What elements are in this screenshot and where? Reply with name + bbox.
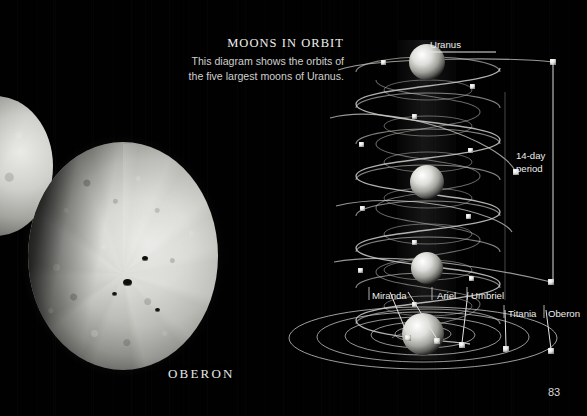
- uranus-sphere-plan: [402, 313, 444, 355]
- label-uranus: Uranus: [430, 39, 461, 50]
- page-number: 83: [548, 386, 560, 398]
- label-moon-titania: Titania: [508, 308, 536, 319]
- orbit-diagram: [0, 0, 587, 416]
- uranus-sphere-lower: [411, 252, 443, 284]
- book-page: OBERON MOONS IN ORBIT This diagram shows…: [0, 0, 587, 416]
- label-period: 14-day period: [516, 150, 545, 176]
- label-moon-miranda: Miranda: [372, 290, 407, 301]
- label-period-line1: 14-day: [516, 150, 545, 163]
- label-period-line2: period: [516, 163, 545, 176]
- uranus-sphere-middle: [410, 165, 444, 199]
- label-moon-ariel: Ariel: [437, 290, 456, 301]
- label-moon-oberon: Oberon: [548, 308, 580, 319]
- label-moon-umbriel: Umbriel: [471, 290, 504, 301]
